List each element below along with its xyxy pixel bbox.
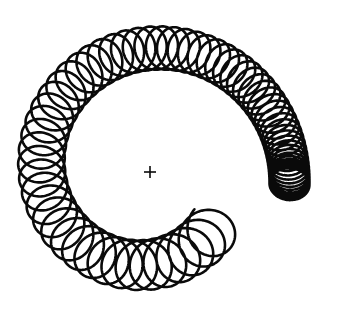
coil-diagram [0,0,340,327]
center-plus-marker [144,166,156,178]
looping-spiral-curve [18,26,309,290]
